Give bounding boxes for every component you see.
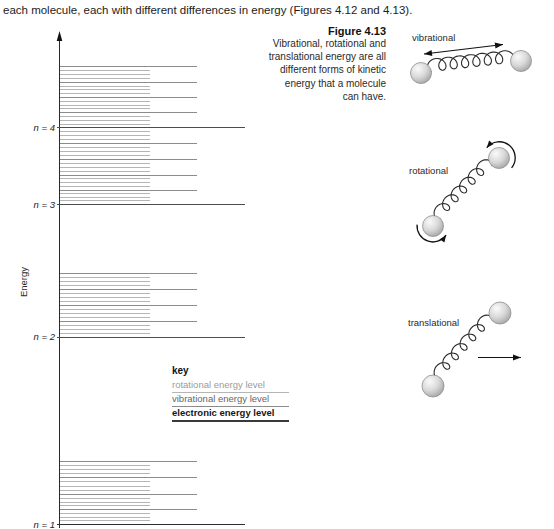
arrowhead (487, 141, 494, 148)
electronic-level-label: n = 2 (22, 332, 55, 342)
rotational-molecule-label: rotational (409, 165, 448, 176)
electronic-level-label: n = 1 (22, 520, 55, 529)
electronic-level-label: n = 4 (22, 123, 55, 133)
atom-ball (423, 216, 444, 237)
key-title: key (172, 365, 289, 376)
key-item-vibrational: vibrational energy level (172, 393, 289, 407)
key-legend: key rotational energy level vibrational … (172, 365, 289, 422)
arrowhead (440, 235, 446, 242)
vibrational-molecule-label: vibrational (412, 32, 455, 43)
key-item-label: vibrational energy level (172, 393, 269, 404)
atom-ball (422, 375, 444, 397)
spring-coil (427, 51, 514, 72)
electronic-level-label: n = 3 (22, 200, 55, 210)
key-item-rotational: rotational energy level (172, 379, 289, 393)
atom-ball (489, 302, 511, 324)
translational-molecule-label: translational (408, 317, 459, 328)
arrowhead (424, 50, 432, 56)
atom-ball (511, 51, 532, 72)
key-item-label: electronic energy level (172, 407, 274, 418)
arrowhead (513, 355, 521, 361)
textbook-figure-page: each molecule, each with different diffe… (0, 0, 554, 529)
atom-ball (489, 148, 510, 169)
atom-ball (411, 63, 432, 84)
key-item-electronic: electronic energy level (172, 407, 289, 422)
figure-label: Figure 4.13 (240, 25, 386, 37)
arrowhead (57, 31, 63, 41)
figure-caption: Vibrational, rotational and translationa… (240, 37, 386, 103)
arrowhead (495, 42, 503, 48)
key-item-label: rotational energy level (172, 379, 265, 390)
energy-axis-label: Energy (18, 252, 30, 312)
